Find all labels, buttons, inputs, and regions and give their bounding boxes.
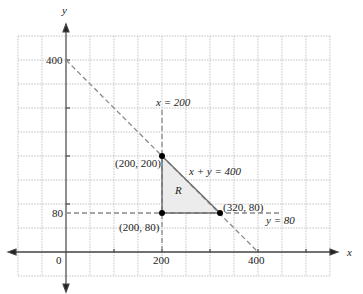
vertex-label-320-80: (320, 80) [223,201,264,214]
y-axis-down-arrow-icon [63,284,69,292]
y-tick-400: 400 [46,54,63,66]
grid [18,36,330,276]
diagram-canvas: y x 0 200 400 80 400 x = 200 y = 80 x + … [0,0,363,294]
line-label-y-80: y = 80 [265,214,295,226]
x-axis-label: x [346,246,352,258]
line-label-x-plus-y-400: x + y = 400 [188,165,242,177]
vertex-label-200-80: (200, 80) [119,221,160,234]
y-axis-label: y [61,4,67,16]
region-label: R [174,184,182,196]
y-tick-80: 80 [52,207,64,219]
vertex-label-200-200: (200, 200) [115,157,161,170]
vertex-200-80 [159,210,165,216]
x-axis-left-arrow-icon [8,249,16,255]
line-label-x-200: x = 200 [155,96,191,108]
constraint-lines [66,60,282,252]
x-axis-right-arrow-icon [330,249,338,255]
y-axis-up-arrow-icon [63,24,69,32]
x-tick-400: 400 [248,254,265,266]
x-tick-200: 200 [153,254,170,266]
origin-label: 0 [56,254,62,266]
